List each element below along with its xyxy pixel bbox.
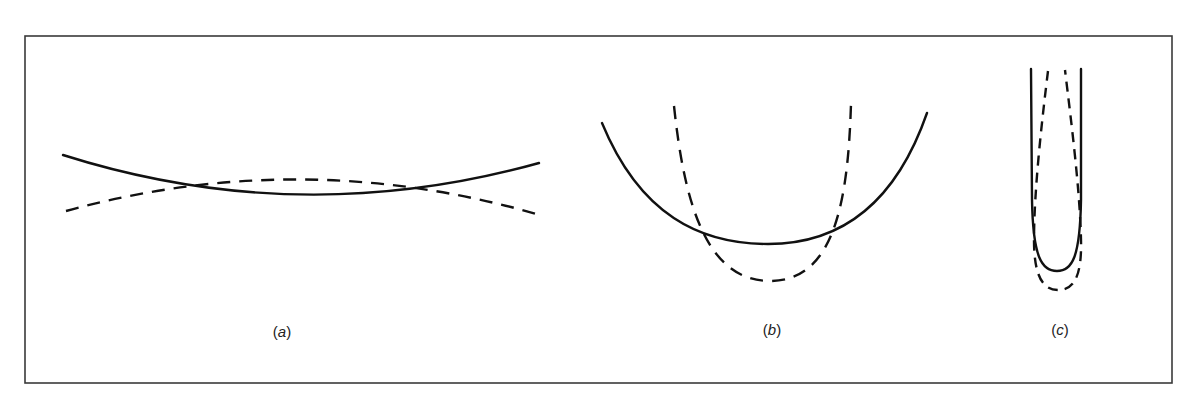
panel-a-label-close: ) bbox=[286, 323, 291, 340]
panel-b: (b) bbox=[602, 104, 927, 338]
panel-c-solid-curve bbox=[1031, 69, 1081, 271]
panel-b-solid-curve bbox=[602, 113, 927, 244]
panel-c-label: (c) bbox=[1051, 321, 1069, 338]
panel-b-label: (b) bbox=[763, 321, 781, 338]
panel-a-label-letter: a bbox=[278, 323, 286, 340]
panel-a: (a) bbox=[63, 155, 540, 340]
figure-frame bbox=[25, 36, 1172, 383]
panel-b-label-close: ) bbox=[776, 321, 781, 338]
panel-a-label: (a) bbox=[273, 323, 291, 340]
panel-b-label-letter: b bbox=[768, 321, 776, 338]
panel-a-dashed-curve bbox=[66, 179, 540, 215]
panel-b-dashed-curve bbox=[674, 104, 851, 281]
figure-canvas: (a) (b) (c) bbox=[0, 0, 1185, 400]
panel-c: (c) bbox=[1031, 69, 1081, 338]
panel-c-label-close: ) bbox=[1064, 321, 1069, 338]
panel-a-solid-curve bbox=[63, 155, 539, 195]
